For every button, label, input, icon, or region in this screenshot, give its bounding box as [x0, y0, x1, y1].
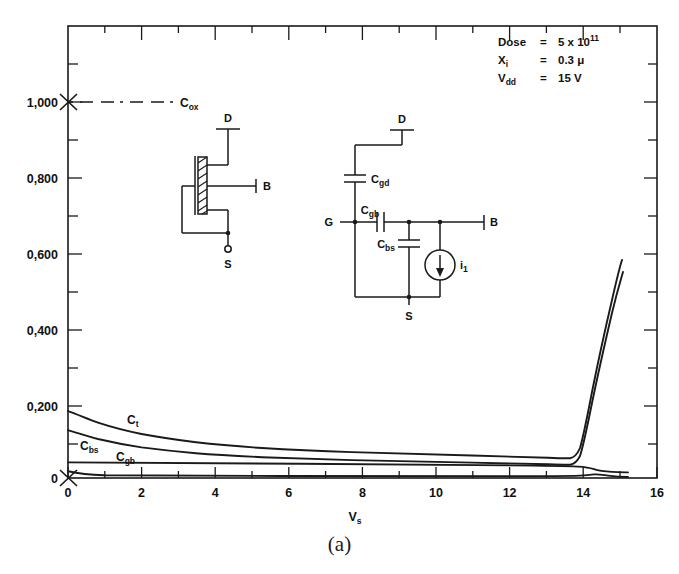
cox-curve-label: Cox — [180, 96, 199, 112]
cgb-curve-label: Cgb — [116, 450, 135, 466]
circuit-cgb-sub: gb — [369, 209, 379, 219]
circuit-cgd-sub: gd — [379, 178, 389, 188]
cbs-label-sub: bs — [89, 445, 99, 455]
svg-text:Cgb: Cgb — [361, 204, 379, 219]
dose-label: Dose — [498, 36, 526, 48]
svg-text:Dose: Dose — [498, 36, 526, 48]
svg-text:i1: i1 — [460, 259, 468, 274]
cbs-label-text: C — [80, 439, 89, 453]
circuit-cbs-sub: bs — [385, 243, 395, 253]
svg-text:Cgb: Cgb — [116, 450, 135, 466]
circuit-drain-label: D — [398, 113, 406, 125]
circuit-current-sub: 1 — [463, 264, 468, 274]
ct-label-sub: t — [136, 419, 139, 429]
mosfet-symbol-diagram — [182, 129, 256, 252]
svg-text:Cgd: Cgd — [371, 173, 389, 188]
svg-text:=: = — [540, 36, 547, 48]
svg-text:15 V: 15 V — [558, 72, 582, 84]
x-tick-label: 0 — [65, 486, 72, 500]
xj-value: 0.3 μ — [558, 54, 584, 66]
mosfet-source-label: S — [224, 258, 231, 270]
x-tick-label: 6 — [285, 486, 292, 500]
y-tick-label: 0,200 — [27, 400, 58, 414]
cox-label-text: C — [180, 96, 189, 110]
x-tick-label: 14 — [576, 486, 590, 500]
svg-text:Cbs: Cbs — [377, 238, 395, 253]
plot-frame — [68, 26, 657, 478]
x-axis-title-sub: s — [357, 516, 362, 526]
equivalent-circuit-diagram — [340, 130, 484, 305]
x-tick-label: 10 — [429, 486, 443, 500]
x-axis-title: Vs — [348, 510, 361, 526]
x-tick-label: 2 — [138, 486, 145, 500]
svg-text:Xi: Xi — [498, 54, 508, 69]
xj-equals: = — [540, 54, 547, 66]
cgb-label-sub: gb — [125, 456, 135, 466]
vdd-equals: = — [540, 72, 547, 84]
cox-label-sub: ox — [189, 102, 199, 112]
vdd-sub: dd — [506, 77, 516, 87]
cbs-curve-label: Cbs — [80, 439, 99, 455]
vdd-value: 15 V — [558, 72, 582, 84]
circuit-cgb-label: C — [361, 204, 369, 216]
dose-equals: = — [540, 36, 547, 48]
equivalent-circuit-labels: D S G B Cgd Cgb Cbs i1 — [324, 113, 498, 322]
svg-text:Vdd: Vdd — [498, 72, 516, 87]
parameter-annotation: Dose = 5 x 1011 Xi = 0.3 μ Vdd = — [498, 33, 599, 87]
svg-text:5 x 1011: 5 x 1011 — [558, 33, 599, 48]
mosfet-symbol-labels: D S B — [224, 112, 271, 270]
y-tick-label: 0,800 — [27, 172, 58, 186]
cgb-label-text: C — [116, 450, 125, 464]
ct-label-text: C — [127, 413, 136, 427]
x-tick-label: 12 — [503, 486, 517, 500]
circuit-source-label: S — [405, 310, 412, 322]
svg-text:0.3 μ: 0.3 μ — [558, 54, 584, 66]
y-tick-labels: 0 0,200 0,400 0,600 0,800 1,000 — [27, 96, 58, 486]
figure-root: 0 2 4 6 8 10 12 14 16 0 0,200 0,400 0,60… — [0, 0, 679, 574]
circuit-gate-label: G — [324, 216, 333, 228]
circuit-cbs-label: C — [377, 238, 385, 250]
y-tick-label: 0,400 — [27, 324, 58, 338]
chart-svg: 0 2 4 6 8 10 12 14 16 0 0,200 0,400 0,60… — [0, 0, 679, 574]
svg-text:Vs: Vs — [348, 510, 361, 526]
curve-clow — [68, 471, 628, 477]
svg-text:Ct: Ct — [127, 413, 139, 429]
x-tick-label: 8 — [359, 486, 366, 500]
svg-text:=: = — [540, 54, 547, 66]
y-tick-label: 1,000 — [27, 96, 58, 110]
curve-ct — [68, 260, 622, 458]
figure-caption: (a) — [0, 532, 679, 557]
svg-text:=: = — [540, 72, 547, 84]
ct-curve-label: Ct — [127, 413, 139, 429]
dose-value: 5 x 10 — [558, 36, 590, 48]
xj-sub: i — [506, 59, 508, 69]
y-tick-label: 0 — [51, 472, 58, 486]
y-tick-label: 0,600 — [27, 248, 58, 262]
mosfet-drain-label: D — [224, 112, 232, 124]
x-tick-labels: 0 2 4 6 8 10 12 14 16 — [65, 486, 664, 500]
circuit-bulk-label: B — [490, 216, 498, 228]
right-axis-ticks — [644, 64, 657, 444]
svg-text:Cbs: Cbs — [80, 439, 99, 455]
mosfet-bulk-label: B — [263, 180, 271, 192]
circuit-cgd-label: C — [371, 173, 379, 185]
svg-text:Cox: Cox — [180, 96, 199, 112]
x-tick-label: 4 — [212, 486, 219, 500]
dose-exponent: 11 — [590, 33, 599, 43]
y-axis-ticks — [68, 64, 82, 444]
x-tick-label: 16 — [650, 486, 664, 500]
